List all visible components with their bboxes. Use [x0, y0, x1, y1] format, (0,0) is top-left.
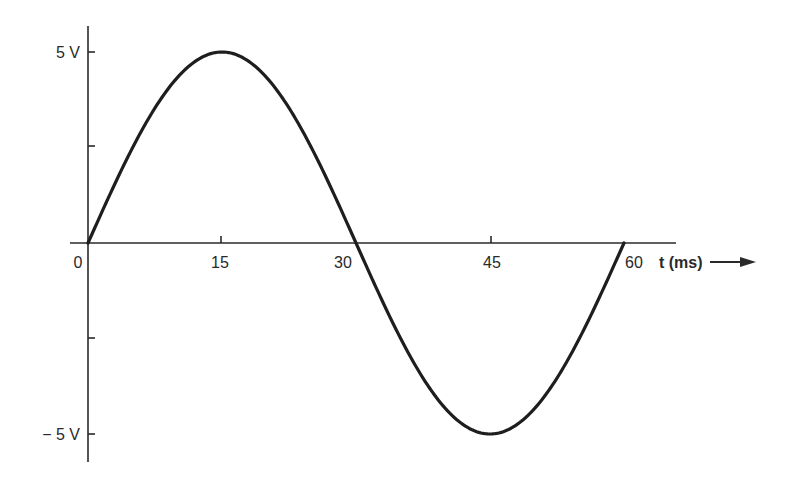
y-tick-label-bottom: − 5 V	[42, 426, 80, 443]
x-axis-label: t (ms)	[659, 254, 703, 271]
x-tick-label-15: 15	[211, 254, 229, 271]
x-tick-label-45: 45	[483, 254, 501, 271]
sine-wave-chart: 5 V − 5 V 0 15 30 45 60 t (ms)	[0, 0, 789, 485]
arrow-right-icon	[710, 257, 756, 267]
x-tick-label-0: 0	[74, 254, 83, 271]
x-tick-label-30: 30	[334, 254, 352, 271]
x-tick-label-60: 60	[625, 254, 643, 271]
y-tick-label-top: 5 V	[56, 44, 80, 61]
